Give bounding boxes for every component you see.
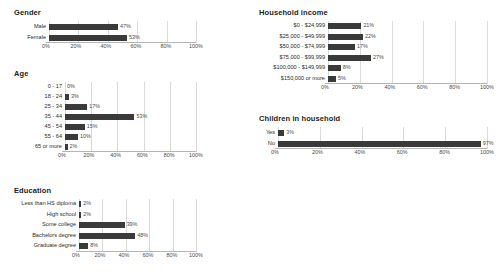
gridline <box>455 53 456 64</box>
axis-tick-label: 60% <box>397 150 408 155</box>
category-label: $25,000 - $49,999 <box>259 34 328 40</box>
chart-panel-household-income: Household income $0 - $24,99921%$25,000 … <box>259 8 487 94</box>
axis-tick-label: 20% <box>71 44 82 49</box>
category-label: 25 - 34 <box>14 104 65 110</box>
bar-plot-area: 53% <box>65 112 196 122</box>
axis-tick-label: 80% <box>439 150 450 155</box>
axis-tick-label: 0% <box>271 150 279 155</box>
bar-value-label: 5% <box>336 76 346 81</box>
bar-plot-area: 0% <box>65 82 196 92</box>
gridline <box>196 220 197 231</box>
bar-plot-area: 21% <box>328 21 487 32</box>
bar <box>65 104 87 110</box>
gridline <box>144 82 145 92</box>
bar-row: 55 - 6410% <box>14 132 196 142</box>
axis-tick-label: 0% <box>42 44 50 49</box>
bar <box>328 44 355 50</box>
gridline <box>196 32 197 43</box>
category-label: 0 - 17 <box>14 84 65 90</box>
bar-value-label: 3% <box>284 130 294 135</box>
bar-row: Male47% <box>14 21 196 32</box>
gridline <box>196 122 197 132</box>
gridline <box>196 102 197 112</box>
bar-plot-area: 27% <box>328 53 487 64</box>
category-label: Graduate degree <box>14 243 79 249</box>
axis-tick-label: 100% <box>189 44 203 49</box>
chart-children-in-household: Yes3%No97% 0%20%40%60%80%100% <box>259 127 487 159</box>
gridline <box>173 210 174 221</box>
x-axis-education: 0%20%40%60%80%100% <box>14 252 196 262</box>
gridline <box>144 102 145 112</box>
gridline <box>196 132 197 142</box>
bar <box>65 134 78 140</box>
axis-tick-label: 60% <box>417 85 428 90</box>
bar-value-label: 8% <box>88 244 98 249</box>
gridline <box>170 92 171 102</box>
gridline <box>144 92 145 102</box>
gridline <box>196 210 197 221</box>
gridline <box>144 132 145 142</box>
axis-tick-label: 80% <box>167 253 178 258</box>
bar-value-label: 47% <box>118 24 131 29</box>
bar-value-label: 2% <box>68 144 78 149</box>
category-label: $50,000 - $74,999 <box>259 44 328 50</box>
gridline <box>487 127 488 138</box>
bar-row: Yes3% <box>259 127 487 138</box>
gridline <box>173 199 174 210</box>
bar-value-label: 21% <box>361 24 374 29</box>
bar-plot-area: 48% <box>79 231 196 242</box>
gridline <box>91 132 92 142</box>
demographics-dashboard: Gender Male47%Female53% 0%20%40%60%80%10… <box>0 0 500 277</box>
gridline <box>423 21 424 32</box>
gridline <box>455 63 456 74</box>
axis-tick-label: 40% <box>119 253 130 258</box>
bar-plot-area: 47% <box>49 21 196 32</box>
chart-panel-education: Education Less than HS diploma2%High sch… <box>14 186 196 262</box>
bar <box>328 55 371 61</box>
gridline <box>117 82 118 92</box>
bar-value-label: 15% <box>85 124 98 129</box>
gridline <box>117 102 118 112</box>
bar-rows-age: 0 - 170%18 - 243%25 - 3417%35 - 4453%45 … <box>14 82 196 152</box>
bar-plot-area: 3% <box>278 127 487 138</box>
bar-row: High school2% <box>14 210 196 221</box>
gridline <box>102 210 103 221</box>
gridline <box>362 127 363 138</box>
bar <box>79 233 135 239</box>
category-label: No <box>259 141 278 147</box>
gridline <box>360 63 361 74</box>
gridline <box>445 127 446 138</box>
axis-tick-label: 20% <box>352 85 363 90</box>
category-label: $0 - $24,999 <box>259 23 328 29</box>
category-label: Less than HS diploma <box>14 201 79 207</box>
gridline <box>170 112 171 122</box>
bar-plot-area: 10% <box>65 132 196 142</box>
bar-value-label: 39% <box>125 223 138 228</box>
gridline <box>117 132 118 142</box>
gridline <box>149 220 150 231</box>
x-axis-gender: 0%20%40%60%80%100% <box>14 43 196 53</box>
bar-value-label: 10% <box>78 134 91 139</box>
axis-tick-label: 100% <box>480 85 494 90</box>
gridline <box>149 210 150 221</box>
bar <box>65 124 85 130</box>
bar <box>328 34 363 40</box>
gridline <box>196 199 197 210</box>
bar <box>79 222 125 228</box>
gridline <box>117 122 118 132</box>
gridline <box>196 241 197 252</box>
category-label: $75,000 - $99,999 <box>259 55 328 61</box>
axis-tick-label: 80% <box>449 85 460 90</box>
bar <box>65 114 134 120</box>
axis-tick-label: 40% <box>101 44 112 49</box>
axis-tick-label: 60% <box>137 153 148 158</box>
bar-rows-gender: Male47%Female53% <box>14 21 196 43</box>
axis-tick-label: 100% <box>480 150 494 155</box>
gridline <box>423 53 424 64</box>
bar-row: $25,000 - $49,99922% <box>259 32 487 43</box>
gridline <box>423 42 424 53</box>
bar-row: 18 - 243% <box>14 92 196 102</box>
bar-plot-area: 17% <box>65 102 196 112</box>
gridline <box>173 220 174 231</box>
bar-rows-children-in-household: Yes3%No97% <box>259 127 487 149</box>
